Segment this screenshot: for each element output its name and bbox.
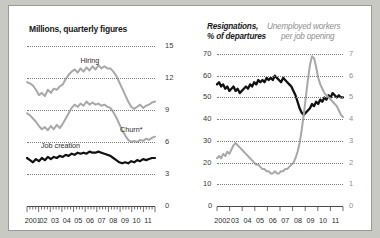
left-chart-title: Millions, quarterly figures bbox=[29, 24, 127, 34]
left-y-axis-tick-label: 10 bbox=[203, 179, 211, 188]
left-y-axis-tick-label: 0 bbox=[208, 201, 212, 210]
x-axis-tick-label: 09 bbox=[307, 216, 315, 225]
x-axis-tick-label: 06 bbox=[86, 216, 94, 225]
right-chart-title-gray-line1: Unemployed workers bbox=[267, 22, 340, 31]
x-axis-tick-label: 10 bbox=[319, 216, 327, 225]
y-axis-tick-label: 9 bbox=[165, 105, 169, 114]
left-chart-panel: Millions, quarterly figures 03691215 Hir… bbox=[9, 6, 187, 232]
series-line bbox=[217, 56, 343, 173]
right-chart-panel: Resignations, % of departures Unemployed… bbox=[195, 6, 373, 232]
x-axis-tick-label: 2002 bbox=[214, 216, 230, 225]
x-axis-tick-label: 07 bbox=[281, 216, 289, 225]
x-axis-tick-label: 05 bbox=[74, 216, 82, 225]
x-axis-tick-label: 10 bbox=[133, 216, 141, 225]
series-label: Hiring bbox=[81, 56, 100, 65]
gridline bbox=[217, 184, 343, 185]
gridline bbox=[27, 174, 155, 175]
x-axis-tick-label: 03 bbox=[231, 216, 239, 225]
right-y-axis-tick-label: 1 bbox=[349, 179, 353, 188]
x-axis-tick-label: 06 bbox=[269, 216, 277, 225]
gridline bbox=[217, 54, 343, 55]
left-y-axis-tick-label: 60 bbox=[203, 71, 211, 80]
x-axis-tick-label: 07 bbox=[98, 216, 106, 225]
right-y-axis-tick-label: 4 bbox=[349, 114, 353, 123]
x-axis-tick-label: 08 bbox=[109, 216, 117, 225]
left-y-axis-tick-label: 20 bbox=[203, 158, 211, 167]
right-chart-title-black-line1: Resignations, bbox=[207, 22, 258, 31]
gridline bbox=[217, 163, 343, 164]
gridline bbox=[27, 78, 155, 79]
series-label: Churn* bbox=[120, 125, 142, 134]
x-axis-tick-label: 04 bbox=[63, 216, 71, 225]
left-plot-area: 03691215 HiringChurn*Job creation 200102… bbox=[27, 46, 155, 206]
gridline bbox=[217, 119, 343, 120]
right-x-axis bbox=[217, 206, 343, 214]
left-y-axis-tick-label: 30 bbox=[203, 136, 211, 145]
left-y-axis-tick-label: 70 bbox=[203, 49, 211, 58]
right-chart-title-black-line2: % of departures bbox=[207, 32, 266, 41]
right-chart-title-gray-line2: per job opening bbox=[281, 32, 334, 41]
y-axis-tick-label: 12 bbox=[165, 73, 173, 82]
right-series-svg bbox=[217, 54, 343, 206]
x-axis-tick-label: 02 bbox=[39, 216, 47, 225]
gridline bbox=[27, 110, 155, 111]
left-y-axis-tick-label: 50 bbox=[203, 92, 211, 101]
series-line bbox=[27, 152, 155, 164]
gridline bbox=[217, 97, 343, 98]
right-y-axis-tick-label: 3 bbox=[349, 136, 353, 145]
x-axis-tick-label: 2001 bbox=[25, 216, 41, 225]
gridline bbox=[217, 141, 343, 142]
image-frame: Millions, quarterly figures 03691215 Hir… bbox=[0, 0, 380, 238]
gridline bbox=[217, 76, 343, 77]
right-y-axis-tick-label: 5 bbox=[349, 92, 353, 101]
left-x-axis bbox=[27, 206, 167, 214]
right-plot-area: 010203040506070 01234567 200203040506070… bbox=[217, 54, 343, 206]
right-y-axis-tick-label: 2 bbox=[349, 158, 353, 167]
right-y-axis-tick-label: 7 bbox=[349, 49, 353, 58]
x-axis-tick-label: 11 bbox=[332, 216, 339, 225]
gridline bbox=[27, 46, 155, 47]
x-axis-tick-label: 11 bbox=[144, 216, 151, 225]
x-axis-tick-label: 05 bbox=[256, 216, 264, 225]
left-y-axis-tick-label: 40 bbox=[203, 114, 211, 123]
series-line bbox=[217, 76, 343, 115]
series-label: Job creation bbox=[41, 141, 80, 150]
x-axis-tick-label: 04 bbox=[244, 216, 252, 225]
y-axis-tick-label: 3 bbox=[165, 169, 169, 178]
right-y-axis-tick-label: 0 bbox=[349, 201, 353, 210]
x-axis-tick-label: 03 bbox=[51, 216, 59, 225]
chart-card: Millions, quarterly figures 03691215 Hir… bbox=[8, 5, 372, 231]
x-axis-tick-label: 09 bbox=[121, 216, 129, 225]
y-axis-tick-label: 6 bbox=[165, 137, 169, 146]
y-axis-tick-label: 15 bbox=[165, 41, 173, 50]
right-y-axis-tick-label: 6 bbox=[349, 71, 353, 80]
x-axis-tick-label: 08 bbox=[294, 216, 302, 225]
